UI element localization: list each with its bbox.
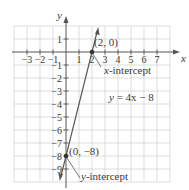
- y-intercept-leader: [67, 158, 80, 178]
- y-axis-arrow-icon: [64, 16, 69, 23]
- x-tick-label: −3: [22, 54, 33, 65]
- y-intercept-text: -intercept: [86, 170, 128, 182]
- line-arrow-top-icon: [95, 27, 100, 35]
- x-tick-label: −2: [35, 54, 46, 65]
- y-tick-label: −6: [51, 125, 62, 136]
- coordinate-plane: −3 −2 −1 1 2 3 4 5 6 7 1 −1 −2 −3 −4 −5 …: [0, 0, 189, 190]
- equation-label: y = 4x − 8: [108, 91, 154, 103]
- y-tick-label: −7: [51, 138, 62, 149]
- y-intercept-point: [64, 154, 69, 159]
- y-intercept-coord-label: (0, −8): [69, 145, 99, 158]
- y-axis-label: y: [56, 9, 62, 21]
- equation-rest: = 4x − 8: [114, 91, 154, 103]
- x-intercept-point: [90, 50, 95, 55]
- y-tick-label: −9: [51, 164, 62, 175]
- x-intercept-annotation: x-intercept: [103, 64, 151, 76]
- line-arrow-bottom-icon: [58, 173, 63, 181]
- y-tick-label: −2: [51, 73, 62, 84]
- y-tick-label: 1: [57, 34, 62, 45]
- y-tick-label: −5: [51, 112, 62, 123]
- y-tick-label: −3: [51, 86, 62, 97]
- x-tick-label: 1: [77, 54, 82, 65]
- x-intercept-text: -intercept: [109, 64, 151, 76]
- x-intercept-coord-label: (2, 0): [94, 36, 118, 49]
- x-tick-label: 7: [155, 54, 160, 65]
- y-tick-label: −1: [51, 60, 62, 71]
- x-axis-label: x: [180, 52, 186, 64]
- x-axis-arrow-icon: [173, 50, 180, 55]
- y-tick-label: −8: [51, 151, 62, 162]
- y-intercept-annotation: y-intercept: [80, 170, 128, 182]
- grid: [14, 26, 170, 182]
- y-tick-label: −4: [51, 99, 62, 110]
